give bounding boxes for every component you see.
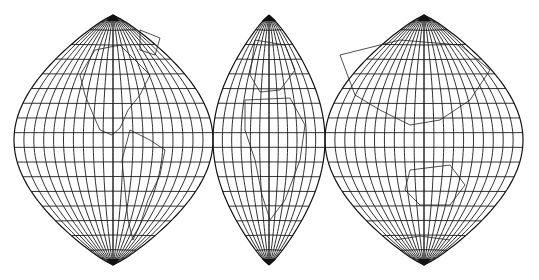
meridian-line — [424, 15, 474, 265]
meridian-line — [269, 15, 278, 265]
meridian-line — [64, 15, 114, 265]
meridian-line — [113, 15, 123, 265]
lobe-asia-australia — [325, 15, 523, 265]
pole-tip — [262, 15, 276, 21]
meridian-line — [113, 15, 203, 265]
lobe-americas — [14, 15, 213, 265]
meridian-line — [269, 15, 316, 265]
lobe-europe-africa — [213, 15, 325, 265]
meridian-line — [24, 15, 113, 265]
pole-tip — [262, 259, 276, 265]
meridian-line — [335, 15, 424, 265]
coastline — [405, 165, 465, 205]
world-map — [0, 0, 539, 280]
meridian-line — [222, 15, 269, 265]
meridian-line — [103, 15, 113, 265]
meridian-line — [414, 15, 424, 265]
coastline — [140, 30, 160, 55]
meridian-line — [424, 15, 434, 265]
meridian-line — [375, 15, 425, 265]
meridian-line — [260, 15, 269, 265]
coastline — [122, 130, 165, 240]
